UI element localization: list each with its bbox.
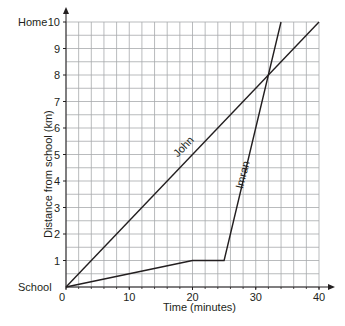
y-tick-label: 8: [54, 69, 60, 81]
x-axis-arrow-icon: [328, 284, 335, 290]
y-tick-label: 4: [54, 175, 60, 187]
y-tick-label: 10: [48, 16, 60, 28]
x-tick-label: 0: [59, 291, 65, 303]
y-axis-arrow-icon: [63, 7, 69, 14]
x-tick-label: 40: [313, 291, 325, 303]
y-tick-label: 9: [54, 43, 60, 55]
x-axis-label: Time (minutes): [163, 301, 236, 313]
school-label: School: [18, 281, 52, 293]
y-tick-label: 3: [54, 202, 60, 214]
home-label: Home: [18, 16, 47, 28]
y-tick-label: 6: [54, 122, 60, 134]
y-axis-label: Distance from school (km): [42, 110, 54, 238]
y-tick-label: 7: [54, 96, 60, 108]
annotation-imran: Imran: [233, 160, 251, 190]
line-annotations: JohnImran: [171, 134, 252, 190]
y-tick-label: 5: [54, 149, 60, 161]
x-tick-label: 30: [250, 291, 262, 303]
x-tick-label: 10: [123, 291, 135, 303]
y-tick-label: 1: [54, 255, 60, 267]
y-tick-label: 2: [54, 228, 60, 240]
distance-time-chart: 01020304012345678910 JohnImran Home Scho…: [0, 0, 345, 326]
